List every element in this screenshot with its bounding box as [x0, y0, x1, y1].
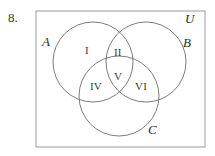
- region-label-iv: IV: [90, 81, 102, 92]
- region-label-i: I: [85, 45, 89, 56]
- set-label-c: C: [148, 123, 157, 136]
- set-label-b: B: [183, 36, 191, 49]
- region-label-v: V: [114, 71, 122, 82]
- region-label-vi: VI: [135, 81, 147, 92]
- problem-number: 8.: [8, 11, 18, 24]
- region-label-ii: II: [114, 47, 122, 58]
- venn-diagram-figure: 8. U A B C I II V IV VI: [0, 0, 215, 156]
- circle-set-c: [79, 56, 159, 136]
- set-label-a: A: [42, 35, 50, 48]
- universal-set-label: U: [185, 12, 194, 25]
- venn-diagram-canvas: [0, 0, 215, 156]
